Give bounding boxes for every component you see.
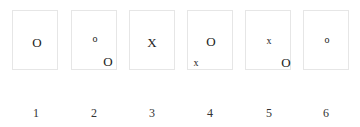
panel-1: O [12,10,58,70]
panel-1-label: 1 [33,106,39,120]
panel-3-label: 3 [149,106,155,120]
panel-2: o O [71,10,117,70]
panel-6: o [303,10,349,70]
panel-2-label: 2 [91,106,97,120]
panel-1-symbol-1: O [32,36,41,49]
panel-4: O x [187,10,233,70]
panel-5: x O [245,10,291,70]
panel-5-label: 5 [266,106,272,120]
panel-6-symbol-1: o [325,35,330,45]
panel-3-symbol-1: X [147,36,156,49]
panel-5-symbol-1: x [267,36,272,46]
panel-6-label: 6 [323,106,329,120]
panel-5-symbol-2: O [281,56,290,69]
panel-4-symbol-1: O [206,35,215,48]
panel-3: X [129,10,175,70]
panel-4-symbol-2: x [194,58,199,68]
panel-2-symbol-2: O [103,55,112,68]
panel-4-label: 4 [207,106,213,120]
panel-2-symbol-1: o [93,34,98,44]
